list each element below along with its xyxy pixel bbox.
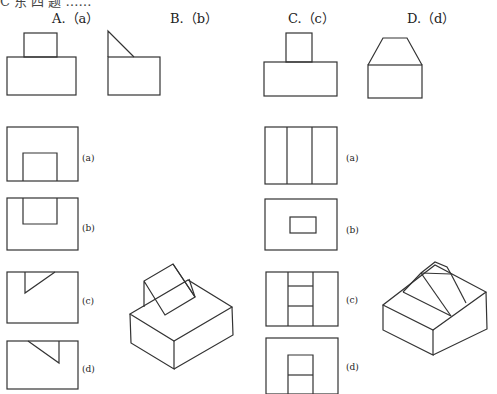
- left-option-b-label: (b): [82, 223, 95, 233]
- left-option-a-view: [7, 127, 78, 181]
- right-option-a-label: (a): [346, 153, 358, 163]
- left-option-d-view: [7, 341, 78, 389]
- right-option-d-view: [266, 338, 338, 394]
- figure-b-front-view: [108, 31, 160, 95]
- figure-c-front-view: [264, 33, 337, 96]
- left-option-a-label: (a): [82, 153, 94, 163]
- left-option-c-view: [7, 272, 78, 323]
- right-option-b-view: [265, 199, 337, 250]
- left-option-d-label: (d): [82, 364, 95, 374]
- left-option-b-view: [7, 198, 78, 250]
- right-option-c-view: [266, 272, 338, 326]
- right-option-c-label: (c): [346, 295, 358, 305]
- left-option-c-label: (c): [82, 296, 94, 306]
- figure-d-front-view: [368, 38, 422, 98]
- drawing-canvas: [0, 0, 497, 394]
- right-option-d-label: (d): [346, 362, 359, 372]
- figure-a-front-view: [7, 33, 76, 95]
- left-isometric-solid: [130, 264, 233, 369]
- right-option-a-view: [265, 127, 337, 184]
- right-isometric-solid: [383, 262, 487, 355]
- right-option-b-label: (b): [346, 225, 359, 235]
